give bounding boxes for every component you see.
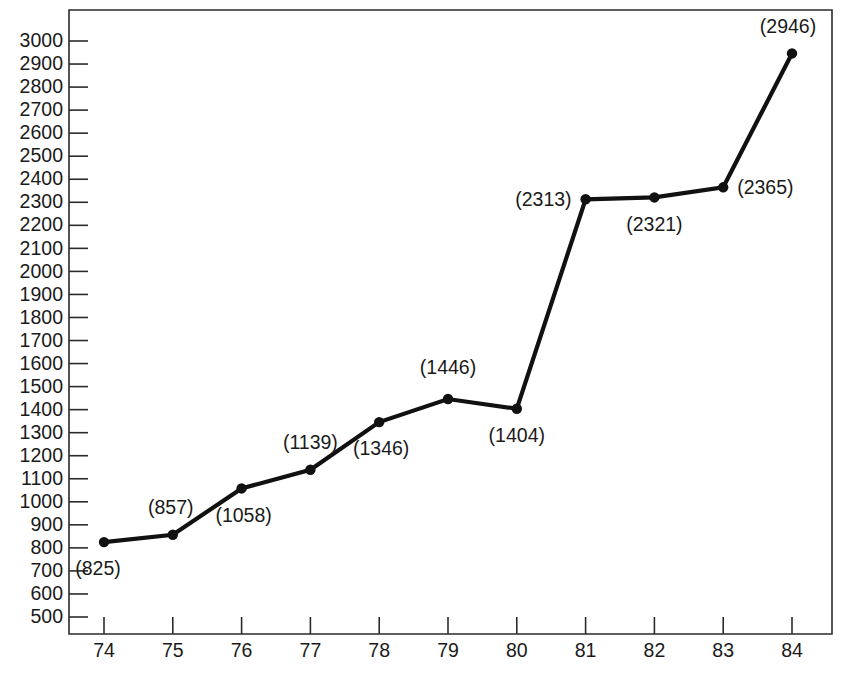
- y-tick-label: 2300: [20, 190, 64, 212]
- y-tick-label: 2600: [20, 121, 64, 143]
- x-tick-label: 74: [93, 639, 115, 661]
- y-tick-label: 2700: [20, 98, 64, 120]
- y-tick-label: 900: [30, 513, 63, 535]
- line-chart: 3000290028002700260025002400230022002100…: [0, 0, 845, 676]
- x-tick-label: 76: [231, 639, 253, 661]
- y-tick-label: 1200: [20, 444, 64, 466]
- data-point-marker: [236, 483, 246, 493]
- y-tick-label: 1700: [20, 329, 64, 351]
- y-tick-label: 1500: [20, 375, 64, 397]
- data-point-label: (1139): [283, 431, 338, 453]
- y-tick-label: 2800: [20, 75, 64, 97]
- data-point-marker: [649, 192, 659, 202]
- x-tick-label: 75: [162, 639, 184, 661]
- y-tick-label: 1300: [20, 421, 64, 443]
- data-point-marker: [374, 417, 384, 427]
- x-tick-label: 79: [437, 639, 459, 661]
- y-tick-label: 2000: [20, 260, 64, 282]
- data-point-label: (2321): [626, 213, 682, 235]
- y-tick-label: 500: [30, 605, 63, 627]
- data-point-marker: [443, 394, 453, 404]
- y-tick-label: 2500: [20, 144, 64, 166]
- data-point-marker: [787, 48, 797, 58]
- data-point-marker: [99, 537, 109, 547]
- data-point-label: (1404): [489, 424, 545, 446]
- y-tick-label: 2100: [20, 237, 64, 259]
- x-tick-label: 77: [300, 639, 322, 661]
- data-point-label: (1058): [215, 504, 271, 526]
- y-tick-label: 2200: [20, 213, 64, 235]
- chart-canvas: 3000290028002700260025002400230022002100…: [0, 0, 845, 676]
- data-point-label: (2365): [737, 176, 793, 198]
- y-tick-label: 1400: [20, 398, 64, 420]
- data-point-label: (2313): [515, 188, 571, 210]
- y-tick-label: 700: [30, 559, 63, 581]
- chart-background: [0, 0, 845, 676]
- data-point-marker: [305, 465, 315, 475]
- y-tick-label: 1000: [20, 490, 64, 512]
- y-tick-label: 800: [30, 536, 63, 558]
- data-point-marker: [580, 194, 590, 204]
- data-point-label: (2946): [760, 15, 816, 37]
- data-point-marker: [718, 182, 728, 192]
- data-point-marker: [168, 530, 178, 540]
- data-point-marker: [512, 404, 522, 414]
- x-tick-label: 83: [712, 639, 734, 661]
- data-point-label: (825): [75, 557, 121, 579]
- y-tick-label: 1900: [20, 283, 64, 305]
- y-tick-label: 1600: [20, 352, 64, 374]
- x-tick-label: 80: [506, 639, 528, 661]
- data-point-label: (1346): [353, 437, 409, 459]
- x-tick-label: 81: [575, 639, 597, 661]
- x-tick-label: 78: [368, 639, 390, 661]
- y-tick-label: 2900: [20, 52, 64, 74]
- y-tick-label: 2400: [20, 167, 64, 189]
- data-point-label: (857): [148, 496, 194, 518]
- y-tick-label: 3000: [20, 29, 64, 51]
- y-tick-label: 600: [30, 582, 63, 604]
- y-tick-label: 1800: [20, 306, 64, 328]
- data-point-label: (1446): [420, 356, 476, 378]
- x-tick-label: 84: [781, 639, 803, 661]
- x-tick-label: 82: [644, 639, 666, 661]
- y-tick-label: 1100: [21, 467, 63, 489]
